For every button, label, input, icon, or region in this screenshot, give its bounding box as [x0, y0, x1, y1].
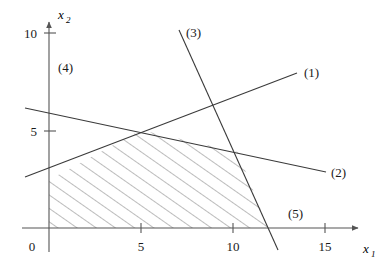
x-tick-label-10: 10 [227, 239, 240, 254]
y-tick-label-5: 5 [31, 124, 38, 139]
figure-container: 0 5 10 15 5 10 x 1 x 2 (1) (2) (3) (4) (… [0, 0, 388, 268]
x-tick-label-5: 5 [138, 239, 145, 254]
x-tick-label-0: 0 [29, 239, 36, 254]
line-label-3: (3) [186, 25, 201, 40]
x-axis-label: x 1 [362, 241, 376, 259]
region-label-5: (5) [288, 206, 303, 221]
y-axis-ticks [44, 33, 56, 131]
feasible-region [49, 130, 268, 228]
y-tick-label-10: 10 [24, 26, 37, 41]
y-axis-label-base: x [57, 7, 64, 22]
y-axis-label: x 2 [57, 7, 71, 25]
y-axis-label-subscript: 2 [66, 15, 71, 25]
line-label-1: (1) [304, 65, 319, 80]
line-label-2: (2) [331, 165, 346, 180]
x-tick-label-15: 15 [319, 239, 332, 254]
x-axis-label-subscript: 1 [371, 249, 376, 259]
linear-programming-diagram: 0 5 10 15 5 10 x 1 x 2 (1) (2) (3) (4) (… [0, 0, 388, 268]
region-label-4: (4) [58, 60, 73, 75]
x-axis-label-base: x [362, 241, 369, 256]
